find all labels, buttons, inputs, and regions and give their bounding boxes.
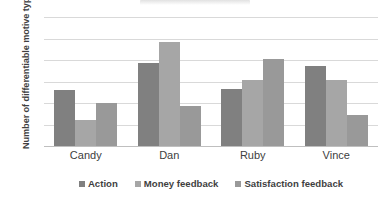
x-axis-category-labels: CandyDanRubyVince (44, 149, 378, 161)
bar-group (211, 17, 295, 146)
legend-swatch-icon (79, 181, 85, 187)
x-axis-category-label: Vince (295, 149, 379, 161)
x-axis-category-label: Candy (44, 149, 128, 161)
bar (138, 63, 159, 146)
legend-item: Action (79, 178, 118, 189)
legend-swatch-icon (135, 181, 141, 187)
bar (221, 89, 242, 146)
bar (347, 115, 368, 146)
legend-swatch-icon (235, 181, 241, 187)
legend-label: Money feedback (144, 178, 219, 189)
bar-groups (44, 17, 378, 146)
y-axis-title: Number of differentiable motive types (21, 0, 31, 149)
plot-area (44, 17, 378, 146)
bar (242, 80, 263, 146)
bar (159, 42, 180, 146)
chart-legend: ActionMoney feedbackSatisfaction feedbac… (44, 178, 378, 189)
x-axis-category-label: Dan (128, 149, 212, 161)
bar (305, 66, 326, 146)
legend-label: Satisfaction feedback (244, 178, 343, 189)
bar-group (128, 17, 212, 146)
cropped-title-sliver (140, 0, 250, 5)
bar (96, 103, 117, 146)
legend-item: Satisfaction feedback (235, 178, 343, 189)
bar (54, 90, 75, 146)
legend-label: Action (88, 178, 118, 189)
legend-item: Money feedback (135, 178, 219, 189)
bar-group (295, 17, 379, 146)
x-axis-category-label: Ruby (211, 149, 295, 161)
bar (180, 106, 201, 146)
bar (75, 120, 96, 146)
bar (326, 80, 347, 146)
bar-chart: Number of differentiable motive types 05… (0, 0, 385, 200)
gridline (44, 146, 378, 147)
bar-group (44, 17, 128, 146)
bar (263, 59, 284, 146)
